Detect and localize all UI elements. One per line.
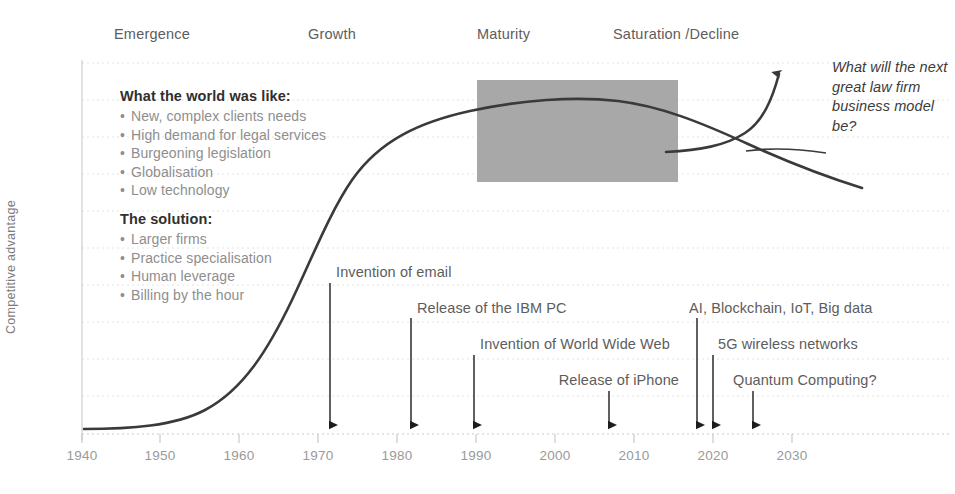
- list-item: Globalisation: [120, 163, 326, 182]
- chart-canvas: Emergence Growth Maturity Saturation /De…: [0, 0, 955, 494]
- world-context-block: What the world was like: New, complex cl…: [120, 88, 326, 200]
- x-tick-label-2010: 2010: [618, 448, 649, 463]
- x-tick-label-1990: 1990: [460, 448, 491, 463]
- x-tick-label-1980: 1980: [381, 448, 412, 463]
- next-model-question: What will the next great law firm busine…: [832, 58, 955, 136]
- x-tick-label-1940: 1940: [66, 448, 97, 463]
- x-tick-label-1950: 1950: [144, 448, 175, 463]
- event-label-ai-blockchain-iot-bigdata: AI, Blockchain, IoT, Big data: [689, 300, 872, 316]
- list-item: Low technology: [120, 181, 326, 200]
- phase-label-emergence: Emergence: [114, 26, 190, 42]
- phase-label-maturity: Maturity: [477, 26, 530, 42]
- event-label-invention-of-email: Invention of email: [336, 264, 451, 280]
- world-context-list: New, complex clients needs High demand f…: [120, 107, 326, 200]
- event-label-release-of-ibm-pc: Release of the IBM PC: [417, 300, 567, 316]
- solution-title: The solution:: [120, 211, 272, 227]
- phase-label-saturation-decline: Saturation /Decline: [613, 26, 739, 42]
- event-label-5g-wireless-networks: 5G wireless networks: [718, 336, 858, 352]
- list-item: New, complex clients needs: [120, 107, 326, 126]
- solution-block: The solution: Larger firms Practice spec…: [120, 211, 272, 304]
- x-tick-label-2020: 2020: [697, 448, 728, 463]
- x-tick-label-2000: 2000: [539, 448, 570, 463]
- question-leader-line: [746, 149, 826, 153]
- y-axis-title: Competitive advantage: [4, 152, 18, 382]
- list-item: Larger firms: [120, 230, 272, 249]
- phase-label-growth: Growth: [308, 26, 356, 42]
- list-item: Practice specialisation: [120, 249, 272, 268]
- list-item: Human leverage: [120, 267, 272, 286]
- list-item: Billing by the hour: [120, 286, 272, 305]
- list-item: High demand for legal services: [120, 126, 326, 145]
- event-label-release-of-iphone: Release of iPhone: [559, 372, 679, 388]
- world-context-title: What the world was like:: [120, 88, 326, 104]
- event-label-quantum-computing: Quantum Computing?: [733, 372, 877, 388]
- event-label-invention-of-www: Invention of World Wide Web: [480, 336, 670, 352]
- solution-list: Larger firms Practice specialisation Hum…: [120, 230, 272, 304]
- x-tick-label-2030: 2030: [776, 448, 807, 463]
- x-tick-label-1960: 1960: [223, 448, 254, 463]
- list-item: Burgeoning legislation: [120, 144, 326, 163]
- x-tick-label-1970: 1970: [302, 448, 333, 463]
